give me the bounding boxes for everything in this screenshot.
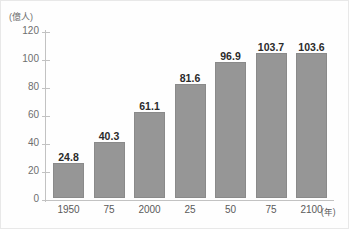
y-tick-mark <box>42 200 50 201</box>
bar-75 <box>256 53 287 198</box>
y-tick-120: 120 <box>1 32 349 33</box>
bar-value-label: 24.8 <box>45 151 93 163</box>
y-tick-label: 120 <box>1 25 39 36</box>
bar-value-label: 81.6 <box>166 72 214 84</box>
y-tick-label: 60 <box>1 109 39 120</box>
bar-50 <box>215 62 246 198</box>
bar-chart-figure: (億人) 020406080100120 24.840.361.181.696.… <box>0 0 349 229</box>
x-axis-unit-label: (年) <box>321 205 336 217</box>
y-tick-label: 40 <box>1 137 39 148</box>
y-tick-mark <box>42 60 50 61</box>
y-tick-mark <box>42 88 50 89</box>
bar-value-label: 61.1 <box>126 100 174 112</box>
bar-2000 <box>134 112 165 198</box>
y-tick-mark <box>42 172 50 173</box>
y-tick-mark <box>42 144 50 145</box>
bar-1950 <box>53 163 84 198</box>
y-axis-unit-label: (億人) <box>9 10 33 23</box>
y-tick-label: 0 <box>1 193 39 204</box>
bar-75 <box>94 142 125 198</box>
bar-value-label: 40.3 <box>85 130 133 142</box>
bar-25 <box>175 84 206 198</box>
bar-value-label: 103.6 <box>288 41 336 53</box>
y-tick-0: 0 <box>1 200 349 201</box>
y-tick-label: 100 <box>1 53 39 64</box>
y-tick-mark <box>42 32 50 33</box>
y-tick-label: 80 <box>1 81 39 92</box>
y-tick-label: 20 <box>1 165 39 176</box>
bar-2100 <box>296 53 327 198</box>
y-tick-mark <box>42 116 50 117</box>
